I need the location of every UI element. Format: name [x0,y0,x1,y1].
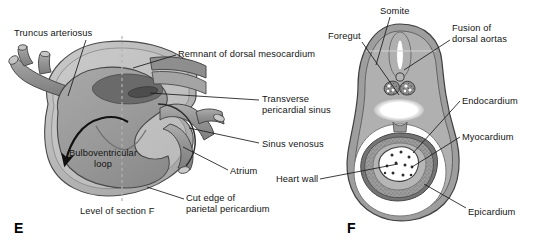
label-epicardium: Epicardium [468,207,515,218]
panel-f-artwork [320,17,466,221]
label-truncus-arteriosus: Truncus arteriosus [14,28,92,39]
label-cut-edge-of-parietal-pericardium: Cut edge of parietal pericardium [186,193,270,215]
fused-dorsal-aortas [396,73,404,81]
label-level-of-section-f: Level of section F [80,206,155,217]
label-sinus-venosus: Sinus venosus [262,139,324,150]
embryo-heart-figure: Truncus arteriosus Remnant of dorsal mes… [0,0,543,251]
label-endocardium: Endocardium [462,96,518,107]
panel-e-artwork [7,36,259,202]
label-heart-wall: Heart wall [276,174,318,185]
label-atrium: Atrium [230,166,257,177]
neural-tube-lumen [397,40,404,70]
label-remnant-of-dorsal-mesocardium: Remnant of dorsal mesocardium [178,49,315,60]
label-foregut: Foregut [328,31,361,42]
label-fusion-of-dorsal-aortas: Fusion of dorsal aortas [452,23,507,45]
panel-letter-e: E [14,221,23,235]
foregut-lumen-core [380,103,418,118]
label-bulboventricular-loop: Bulboventricular loop [60,148,146,170]
panel-letter-f: F [347,221,356,235]
label-somite: Somite [380,6,410,17]
label-transverse-pericardial-sinus: Transverse pericardial sinus [262,94,331,116]
endocardium-lumen [379,147,419,182]
label-myocardium: Myocardium [462,132,514,143]
